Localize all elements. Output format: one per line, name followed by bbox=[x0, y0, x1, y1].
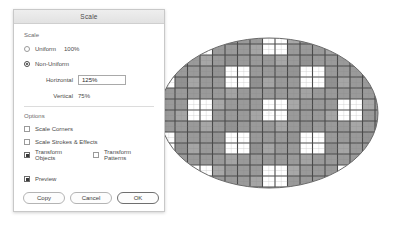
non-uniform-row[interactable]: Non-Uniform bbox=[24, 59, 154, 68]
uniform-row[interactable]: Uniform 100% bbox=[24, 44, 154, 53]
scale-corners-checkbox-icon[interactable] bbox=[24, 126, 30, 132]
illustrator-canvas: Scale Scale Uniform 100% Non-Uniform Hor… bbox=[0, 0, 398, 230]
vertical-value[interactable]: 75% bbox=[78, 93, 90, 99]
preview-label: Preview bbox=[35, 176, 56, 182]
vertical-label: Vertical bbox=[35, 93, 73, 99]
pattern-fill-group bbox=[155, 33, 385, 198]
uniform-label: Uniform bbox=[35, 46, 56, 52]
uniform-radio-icon[interactable] bbox=[24, 46, 30, 52]
scale-strokes-row[interactable]: Scale Strokes & Effects bbox=[24, 138, 154, 146]
non-uniform-radio-icon[interactable] bbox=[24, 61, 30, 67]
scale-strokes-checkbox-icon[interactable] bbox=[24, 139, 30, 145]
options-section-label: Options bbox=[24, 113, 154, 119]
scale-strokes-label: Scale Strokes & Effects bbox=[35, 139, 98, 145]
cancel-button[interactable]: Cancel bbox=[70, 192, 112, 204]
dialog-body: Scale Uniform 100% Non-Uniform Horizonta… bbox=[14, 24, 164, 212]
preview-row[interactable]: Preview bbox=[24, 176, 56, 182]
scale-section-label: Scale bbox=[24, 32, 154, 38]
transform-objects-checkbox-icon[interactable] bbox=[24, 152, 30, 158]
transform-patterns-label: Transform Patterns bbox=[104, 149, 154, 161]
scale-corners-row[interactable]: Scale Corners bbox=[24, 125, 154, 133]
horizontal-input[interactable]: 125% bbox=[78, 75, 126, 85]
transform-row: Transform Objects Transform Patterns bbox=[24, 151, 154, 159]
scale-dialog[interactable]: Scale Scale Uniform 100% Non-Uniform Hor… bbox=[13, 9, 165, 212]
dialog-titlebar[interactable]: Scale bbox=[14, 10, 164, 24]
section-divider bbox=[24, 106, 154, 107]
scale-corners-label: Scale Corners bbox=[35, 126, 73, 132]
copy-button[interactable]: Copy bbox=[23, 192, 65, 204]
dialog-buttons: Copy Cancel OK bbox=[23, 192, 159, 204]
pattern-fill bbox=[155, 33, 385, 198]
vertical-row[interactable]: Vertical 75% bbox=[24, 90, 154, 101]
transform-objects-label: Transform Objects bbox=[35, 149, 83, 161]
horizontal-row[interactable]: Horizontal 125% bbox=[24, 74, 154, 85]
ok-button[interactable]: OK bbox=[117, 192, 159, 204]
horizontal-label: Horizontal bbox=[35, 77, 73, 83]
uniform-value: 100% bbox=[64, 46, 79, 52]
transform-patterns-checkbox-icon[interactable] bbox=[93, 152, 99, 158]
non-uniform-label: Non-Uniform bbox=[35, 61, 69, 67]
dialog-title: Scale bbox=[80, 13, 97, 20]
preview-checkbox-icon[interactable] bbox=[24, 176, 30, 182]
